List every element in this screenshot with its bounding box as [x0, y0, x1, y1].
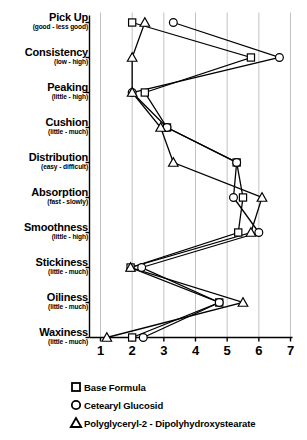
chart-legend: Base FormulaCetearyl GlucosidPolyglycery…	[68, 378, 307, 432]
x-axis-tick-4: 4	[186, 343, 206, 358]
square-marker	[239, 194, 246, 201]
legend-label: Polyglyceryl-2 - Dipolyhydroxystearate	[84, 418, 256, 429]
circle-marker	[255, 229, 263, 237]
x-axis-tick-7: 7	[281, 343, 301, 358]
x-axis-tick-2: 2	[122, 343, 142, 358]
square-marker	[129, 334, 136, 341]
x-axis-tick-6: 6	[249, 343, 269, 358]
plot-area	[0, 0, 307, 440]
x-axis-tick-1: 1	[91, 343, 111, 358]
circle-marker	[68, 398, 84, 412]
series-markers-circle	[128, 19, 283, 342]
circle-marker	[215, 299, 223, 307]
legend-item-0[interactable]: Base Formula	[68, 378, 307, 396]
axes	[86, 16, 293, 342]
triangle-marker	[127, 53, 137, 62]
triangle-marker	[140, 18, 150, 27]
circle-marker	[169, 19, 177, 27]
circle-marker	[233, 159, 241, 167]
legend-item-1[interactable]: Cetearyl Glucosid	[68, 396, 307, 414]
legend-label: Base Formula	[84, 382, 146, 393]
circle-marker	[230, 194, 238, 202]
x-axis-tick-3: 3	[154, 343, 174, 358]
triangle-marker	[246, 228, 256, 237]
triangle-marker	[68, 416, 84, 430]
circle-marker	[139, 334, 147, 342]
square-marker	[141, 89, 148, 96]
sensory-profile-chart: Pick Up(good - less good)Consistency(low…	[0, 0, 307, 440]
legend-item-2[interactable]: Polyglyceryl-2 - Dipolyhydroxystearate	[68, 414, 307, 432]
x-axis-tick-labels: 1234567	[0, 343, 307, 363]
circle-marker	[138, 264, 146, 272]
square-marker	[68, 380, 84, 394]
series-line-triangle	[107, 23, 262, 338]
square-marker	[129, 19, 136, 26]
x-axis-tick-5: 5	[217, 343, 237, 358]
circle-marker	[276, 54, 284, 62]
legend-label: Cetearyl Glucosid	[84, 400, 163, 411]
triangle-marker	[169, 158, 179, 167]
square-marker	[235, 229, 242, 236]
square-marker	[247, 54, 254, 61]
